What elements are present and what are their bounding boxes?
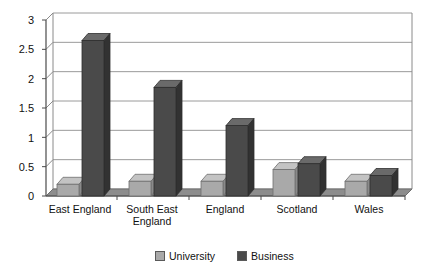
- bar-east-england-business: [82, 34, 110, 197]
- x-tick-label-east-england: East England: [42, 203, 118, 215]
- legend-label-business: Business: [251, 250, 294, 262]
- bar-wales-business: [370, 169, 398, 197]
- x-tick-label-south-east-england: South East England: [119, 203, 185, 227]
- bar-wales-university: [345, 174, 373, 196]
- bar-east-england-university: [57, 177, 85, 196]
- legend-item-business: Business: [237, 250, 294, 262]
- chart-legend: University Business: [155, 250, 294, 262]
- bar-chart: 3 2.5 2 1.5 1 0.5 0: [0, 0, 426, 273]
- legend-swatch-university-icon: [155, 251, 165, 261]
- bar-scotland-university: [273, 163, 301, 196]
- legend-label-university: University: [169, 250, 215, 262]
- bar-scotland-business: [298, 157, 326, 196]
- bar-england-university: [201, 174, 229, 196]
- x-axis-ticks: [117, 196, 405, 200]
- bar-south-east-england-university: [129, 174, 157, 196]
- bar-england-business: [226, 119, 254, 196]
- x-tick-label-wales: Wales: [333, 203, 405, 215]
- bar-south-east-england-business: [154, 80, 182, 196]
- legend-item-university: University: [155, 250, 215, 262]
- legend-swatch-business-icon: [237, 251, 247, 261]
- x-tick-label-scotland: Scotland: [261, 203, 333, 215]
- x-tick-label-england: England: [189, 203, 261, 215]
